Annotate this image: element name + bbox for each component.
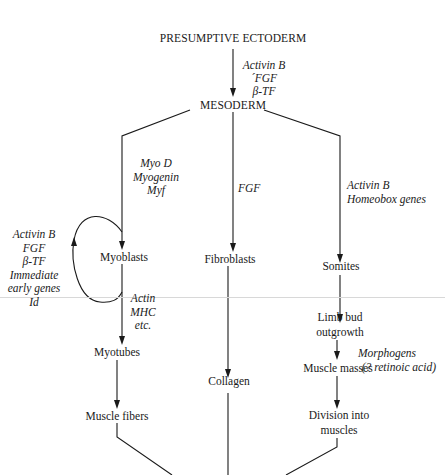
factors-somite: Activin B Homeobox genes: [347, 179, 426, 206]
factor-myogenin: Myogenin: [131, 171, 181, 185]
node-muscle-fibers: Muscle fibers: [86, 409, 149, 423]
factor-actin: Actin: [128, 292, 158, 306]
node-mesoderm: MESODERM: [200, 98, 266, 112]
limb-bud-line1: Limb bud: [316, 310, 363, 325]
factors-proliferation-loop: Activin B FGF β-TF Immediate early genes…: [4, 228, 64, 309]
factor-mhc: MHC: [128, 306, 158, 320]
node-muscle-masses: Muscle masses: [303, 361, 372, 375]
limb-bud-line2: outgrowth: [316, 325, 363, 340]
diagram-connectors: [0, 0, 445, 475]
node-presumptive-ectoderm: PRESUMPTIVE ECTODERM: [160, 31, 307, 45]
node-fibroblasts: Fibroblasts: [204, 252, 255, 266]
node-division-into-muscles: Division into muscles: [309, 408, 369, 438]
node-myotubes: Myotubes: [94, 345, 140, 359]
factors-ectoderm-to-mesoderm: Activin B ´FGF β-TF: [242, 59, 286, 98]
line-fibers-to-merge: [117, 423, 172, 475]
factor-id: Id: [4, 296, 64, 310]
division-line2: muscles: [309, 423, 369, 438]
factor-immediate: Immediate: [4, 269, 64, 283]
factor-morphogens: Morphogens: [338, 346, 436, 360]
factor-activin-b: Activin B: [4, 228, 64, 242]
factor-early-genes: early genes: [4, 282, 64, 296]
arrow-mesoderm-to-somites: [264, 110, 340, 256]
factor-homeobox-genes: Homeobox genes: [347, 193, 426, 207]
factors-myogenic: Myo D Myogenin Myf: [131, 157, 181, 198]
line-division-to-merge: [286, 438, 337, 475]
factor-myod: Myo D: [131, 157, 181, 171]
factors-differentiation: Actin MHC etc.: [128, 292, 158, 333]
node-myoblasts: Myoblasts: [100, 250, 148, 264]
factor-etc: etc.: [128, 319, 158, 333]
division-line1: Division into: [309, 408, 369, 423]
node-limb-bud-outgrowth: Limb bud outgrowth: [316, 310, 363, 340]
factor-beta-tf: β-TF: [242, 85, 286, 98]
factor-activin-b: Activin B: [347, 179, 426, 193]
factor-activin-b: Activin B: [242, 59, 286, 72]
factor-fgf-center: FGF: [238, 181, 260, 195]
factor-fgf: FGF: [4, 242, 64, 256]
factor-beta-tf: β-TF: [4, 255, 64, 269]
factor-myf: Myf: [131, 184, 181, 198]
node-collagen: Collagen: [208, 374, 250, 388]
factor-fgf: ´FGF: [242, 72, 286, 85]
scan-artifact-line: [0, 297, 445, 298]
node-somites: Somites: [322, 259, 359, 273]
